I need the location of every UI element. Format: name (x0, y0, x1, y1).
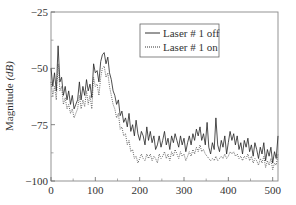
y-tick-label: −50 (31, 62, 49, 74)
y-axis-label: Magnitude (dB) (3, 61, 16, 131)
x-tick-label: 200 (131, 184, 148, 196)
series-layer (51, 46, 278, 170)
x-tick-label: 0 (48, 184, 54, 196)
x-tick-label: 400 (220, 184, 237, 196)
chart: 0100200300400500 −25−50−75−100 Magnitude… (0, 0, 296, 205)
series-line-laser-on (51, 64, 278, 170)
y-tick-label: −75 (31, 119, 49, 131)
x-tick-label: 500 (264, 184, 281, 196)
y-tick-label: −25 (31, 6, 49, 18)
x-tick-label: 300 (176, 184, 193, 196)
y-axis-label-unit: (dB) (3, 61, 16, 81)
x-axis-ticks: 0100200300400500 (48, 177, 281, 196)
legend: Laser # 1 off Laser # 1 on (140, 24, 220, 57)
y-axis-label-main: Magnitude (3, 81, 15, 131)
legend-label-off: Laser # 1 off (163, 27, 220, 39)
y-axis-ticks: −25−50−75−100 (25, 6, 55, 187)
y-tick-label: −100 (25, 175, 48, 187)
legend-label-on: Laser # 1 on (163, 41, 218, 53)
series-line-laser-off (51, 46, 278, 163)
x-tick-label: 100 (87, 184, 104, 196)
